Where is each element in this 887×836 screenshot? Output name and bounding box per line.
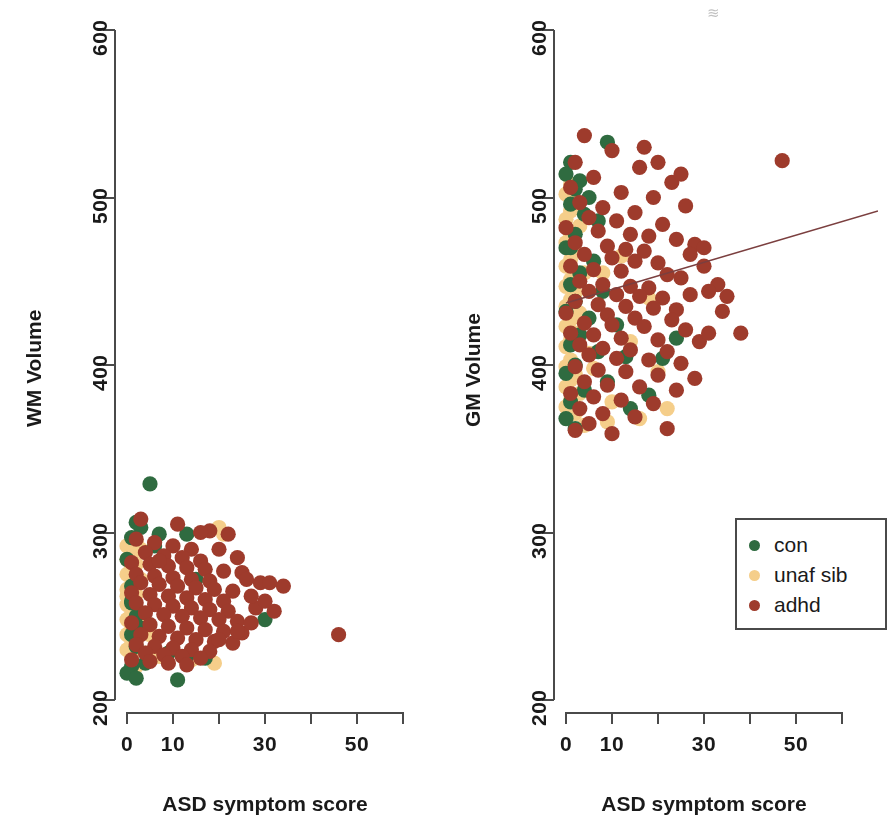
x-tick-label-gm-30: 30 <box>692 732 716 756</box>
scan-artifact-mark: ≋ <box>707 4 717 22</box>
x-tick-gm-50 <box>795 712 797 724</box>
x-tick-label-wm-30: 30 <box>253 732 277 756</box>
x-tick-gm-0 <box>565 712 567 724</box>
x-tick-wm-50 <box>356 712 358 724</box>
legend-item-adhd: adhd <box>749 590 877 620</box>
legend-label-unaf-sib: unaf sib <box>774 563 848 587</box>
legend-item-con: con <box>749 530 877 560</box>
x-tick-label-gm-0: 0 <box>560 732 572 756</box>
x-tick-label-wm-10: 10 <box>161 732 185 756</box>
legend: con unaf sib adhd <box>735 518 887 630</box>
x-tick-gm-20 <box>657 712 659 724</box>
y-tick-label-gm-400: 400 <box>527 354 551 391</box>
x-tick-wm-10 <box>172 712 174 724</box>
x-tick-label-wm-0: 0 <box>121 732 133 756</box>
y-axis-title-wm: WM Volume <box>22 310 46 427</box>
legend-label-con: con <box>774 533 808 557</box>
y-tick-label-wm-600: 600 <box>88 19 112 56</box>
panel-gm-volume: ≋ 600 500 400 300 200 GM Volume 0 10 30 … <box>439 0 878 836</box>
y-tick-label-wm-200: 200 <box>88 689 112 726</box>
y-tick-label-wm-500: 500 <box>88 187 112 224</box>
x-tick-wm-30 <box>264 712 266 724</box>
x-tick-label-wm-50: 50 <box>345 732 369 756</box>
x-tick-gm-10 <box>611 712 613 724</box>
x-tick-wm-0 <box>126 712 128 724</box>
y-tick-label-gm-600: 600 <box>527 19 551 56</box>
x-tick-gm-30 <box>703 712 705 724</box>
y-tick-label-gm-500: 500 <box>527 187 551 224</box>
y-tick-label-wm-400: 400 <box>88 354 112 391</box>
scatter-points-gm <box>439 0 878 836</box>
x-tick-wm-60 <box>402 712 404 724</box>
plot-area-wm <box>0 0 439 836</box>
legend-swatch-unaf-sib-icon <box>749 570 760 581</box>
x-axis-title-wm: ASD symptom score <box>162 792 367 816</box>
y-axis-title-gm: GM Volume <box>461 313 485 427</box>
x-tick-gm-60 <box>841 712 843 724</box>
legend-swatch-adhd-icon <box>749 600 760 611</box>
y-tick-label-gm-200: 200 <box>527 689 551 726</box>
legend-label-adhd: adhd <box>774 593 821 617</box>
scatter-points-wm <box>0 0 439 836</box>
plot-area-gm <box>439 0 878 836</box>
y-tick-label-wm-300: 300 <box>88 522 112 559</box>
x-tick-gm-40 <box>749 712 751 724</box>
legend-item-unaf-sib: unaf sib <box>749 560 877 590</box>
x-tick-wm-20 <box>218 712 220 724</box>
panel-wm-volume: 600 500 400 300 200 WM Volume 0 10 30 50… <box>0 0 439 836</box>
x-tick-wm-40 <box>310 712 312 724</box>
x-tick-label-gm-10: 10 <box>600 732 624 756</box>
legend-swatch-con-icon <box>749 540 760 551</box>
x-axis-title-gm: ASD symptom score <box>601 792 806 816</box>
x-tick-label-gm-50: 50 <box>784 732 808 756</box>
y-tick-label-gm-300: 300 <box>527 522 551 559</box>
